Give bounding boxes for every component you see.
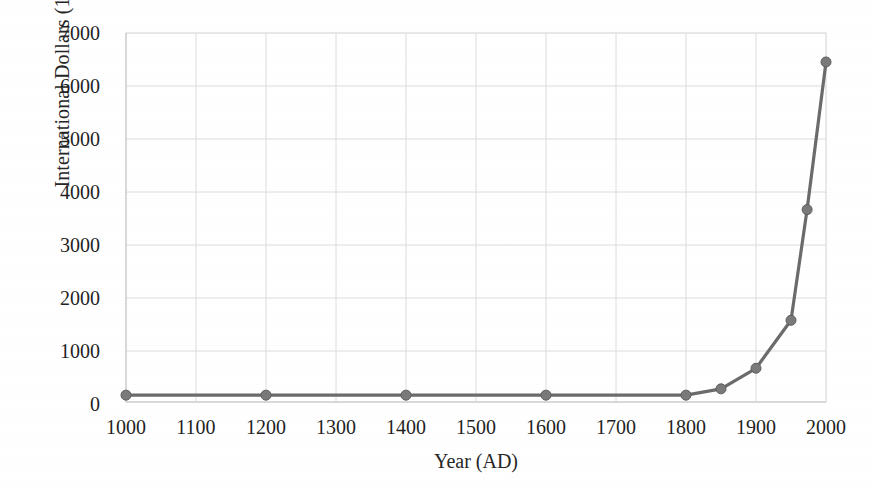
data-point-marker — [681, 390, 691, 400]
data-point-marker — [821, 57, 831, 67]
data-point-marker — [261, 390, 271, 400]
plot-canvas — [0, 0, 878, 493]
data-point-marker — [802, 205, 812, 215]
chart-figure: International Dollars (1990) Year (AD) 7… — [0, 0, 878, 493]
data-point-marker — [121, 390, 131, 400]
data-point-marker — [786, 315, 796, 325]
data-point-marker — [716, 384, 726, 394]
data-point-marker — [401, 390, 411, 400]
data-point-marker — [541, 390, 551, 400]
data-point-marker — [751, 363, 761, 373]
